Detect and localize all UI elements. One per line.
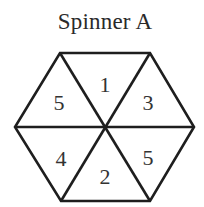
sector-label-upper-right: 3 [143,90,154,115]
sector-label-lower-right: 5 [143,145,154,170]
sector-label-top: 1 [100,72,111,97]
sector-label-lower-left: 4 [56,146,67,171]
sector-label-upper-left: 5 [54,90,65,115]
spinner-a-diagram: 1 3 5 2 4 5 [0,0,204,207]
sector-label-bottom: 2 [100,164,111,189]
